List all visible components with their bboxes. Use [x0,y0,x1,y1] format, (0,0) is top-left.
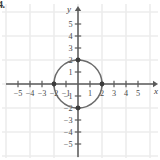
x-tick-label: −4 [26,89,35,98]
y-tick-label: −5 [64,140,73,149]
x-tick-label: −5 [14,89,23,98]
y-tick-label: −1 [64,92,73,101]
graph-figure: 4. −5−4−3−2−11234554321−1−2−3−4−5 yx [0,0,160,160]
y-tick-label: 4 [68,32,72,41]
x-tick-label: 3 [112,89,116,98]
y-tick-label: −3 [64,116,73,125]
axis-names-group: yx [66,4,158,96]
coordinate-plane: −5−4−3−2−11234554321−1−2−3−4−5 yx [0,0,160,160]
y-axis-label: y [66,4,71,14]
x-tick-label: −3 [38,89,47,98]
y-tick-label: −4 [64,128,73,137]
x-axis-label: x [153,86,158,96]
y-tick-label: 3 [68,44,72,53]
y-tick-label: 1 [68,68,72,77]
y-axis-arrowhead [75,6,81,11]
data-point [52,82,57,87]
data-point [76,58,81,63]
gridlines-group [2,4,158,158]
data-point [76,106,81,111]
x-tick-label: 1 [88,89,92,98]
data-point [100,82,105,87]
x-tick-label: 5 [136,89,140,98]
y-tick-label: 5 [68,20,72,29]
x-tick-label: 4 [124,89,128,98]
axes-group [6,6,158,157]
